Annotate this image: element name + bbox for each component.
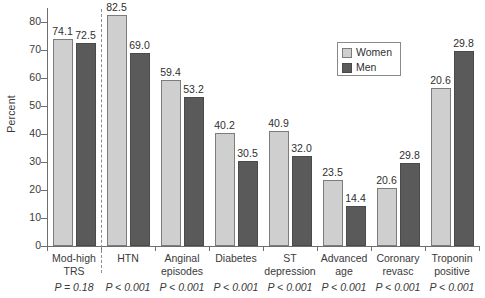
y-tick-mark	[41, 106, 47, 107]
bar-value-label: 32.0	[287, 142, 317, 154]
y-tick-mark	[41, 50, 47, 51]
x-category-label: Coronary revasc	[369, 252, 427, 277]
legend-label-men: Men	[356, 62, 376, 73]
legend-item-women: Women	[342, 46, 396, 59]
p-value-label: P < 0.001	[152, 281, 212, 293]
x-tick-mark	[209, 246, 210, 251]
y-tick-mark	[41, 78, 47, 79]
bar-chart-figure: Percent 01020304050607080 74.172.582.569…	[0, 0, 485, 298]
bar-value-label: 53.2	[179, 83, 209, 95]
bar-value-label: 69.0	[125, 39, 155, 51]
bar-value-label: 20.6	[426, 74, 456, 86]
bar-women	[107, 15, 127, 246]
p-value-label: P < 0.001	[422, 281, 482, 293]
x-tick-mark	[371, 246, 372, 251]
y-axis-title: Percent	[5, 69, 17, 159]
bar-value-label: 82.5	[102, 1, 132, 13]
y-tick-label: 60	[17, 71, 41, 83]
bar-value-label: 29.8	[395, 149, 425, 161]
x-tick-mark	[155, 246, 156, 251]
y-tick-mark	[41, 218, 47, 219]
bar-women	[269, 131, 289, 246]
p-value-label: P < 0.001	[206, 281, 266, 293]
men-swatch-icon	[342, 63, 352, 73]
p-value-label: P < 0.001	[314, 281, 374, 293]
p-value-label: P < 0.001	[98, 281, 158, 293]
y-tick-label: 50	[17, 99, 41, 111]
y-tick-mark	[41, 162, 47, 163]
y-tick-label: 10	[17, 211, 41, 223]
x-tick-mark	[263, 246, 264, 251]
bar-men	[130, 53, 150, 246]
group-divider-dashed-line	[101, 9, 102, 273]
x-category-label: Troponin positive	[423, 252, 481, 277]
x-tick-mark	[317, 246, 318, 251]
bar-women	[377, 188, 397, 246]
bar-women	[431, 88, 451, 246]
p-value-label: P < 0.001	[260, 281, 320, 293]
y-tick-mark	[41, 22, 47, 23]
p-value-label: P < 0.001	[368, 281, 428, 293]
chart-legend: Women Men	[337, 42, 401, 76]
p-value-label: P = 0.18	[44, 281, 104, 293]
bar-value-label: 72.5	[71, 29, 101, 41]
y-axis-line	[47, 8, 48, 246]
bar-women	[53, 39, 73, 246]
women-swatch-icon	[342, 48, 352, 58]
bar-women	[323, 180, 343, 246]
bar-men	[76, 43, 96, 246]
bar-men	[400, 163, 420, 246]
bar-men	[454, 51, 474, 246]
bar-value-label: 23.5	[318, 166, 348, 178]
y-tick-label: 20	[17, 183, 41, 195]
y-tick-label: 70	[17, 43, 41, 55]
legend-label-women: Women	[356, 47, 392, 58]
y-tick-label: 30	[17, 155, 41, 167]
bar-value-label: 40.9	[264, 117, 294, 129]
x-category-label: HTN	[99, 252, 157, 265]
legend-item-men: Men	[342, 61, 396, 74]
y-tick-label: 40	[17, 127, 41, 139]
bar-value-label: 30.5	[233, 147, 263, 159]
x-category-label: Diabetes	[207, 252, 265, 265]
y-tick-mark	[41, 190, 47, 191]
x-category-label: Advanced age	[315, 252, 373, 277]
bar-value-label: 59.4	[156, 66, 186, 78]
bar-value-label: 20.6	[372, 174, 402, 186]
x-category-label: Anginal episodes	[153, 252, 211, 277]
bar-value-label: 29.8	[449, 37, 479, 49]
bar-men	[184, 97, 204, 246]
x-tick-mark	[425, 246, 426, 251]
x-tick-mark	[47, 246, 48, 251]
bar-value-label: 40.2	[210, 119, 240, 131]
bar-men	[238, 161, 258, 246]
x-category-label: ST depression	[261, 252, 319, 277]
bar-men	[292, 156, 312, 246]
bar-women	[161, 80, 181, 246]
y-tick-mark	[41, 134, 47, 135]
x-category-label: Mod-high TRS	[45, 252, 103, 277]
bar-value-label: 14.4	[341, 192, 371, 204]
y-tick-label: 0	[17, 239, 41, 251]
bar-men	[346, 206, 366, 246]
x-tick-mark	[479, 246, 480, 251]
bar-women	[215, 133, 235, 246]
y-tick-label: 80	[17, 15, 41, 27]
